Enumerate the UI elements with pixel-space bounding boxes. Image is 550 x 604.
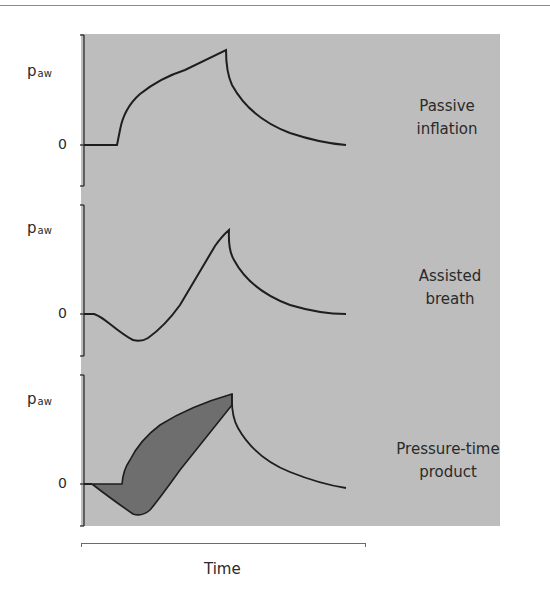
panel-assisted-caption: Assistedbreath <box>390 265 510 311</box>
panel-assisted-zero-label: 0 <box>58 305 67 321</box>
panel-ptp-zero-label: 0 <box>58 475 67 491</box>
panel-assisted-y-label: paw <box>27 219 52 237</box>
pressure-time-product-area <box>92 394 232 515</box>
panel-passive-y-label: paw <box>27 62 52 80</box>
time-axis-left-tick <box>81 543 82 547</box>
panel-ptp-caption: Pressure-timeproduct <box>376 438 520 484</box>
time-axis-bar <box>81 543 366 544</box>
time-axis-label: Time <box>204 560 241 578</box>
panel-assisted-axis <box>80 205 84 356</box>
panel-ptp-y-label: paw <box>27 390 52 408</box>
assisted-breath-curve <box>84 230 346 341</box>
panel-passive-zero-label: 0 <box>58 136 67 152</box>
panel-passive-caption: Passiveinflation <box>387 95 507 141</box>
time-axis-right-tick <box>365 543 366 547</box>
passive-inflation-curve <box>84 50 346 145</box>
panel-ptp-axis <box>80 375 84 526</box>
panel-passive-axis <box>80 35 84 186</box>
